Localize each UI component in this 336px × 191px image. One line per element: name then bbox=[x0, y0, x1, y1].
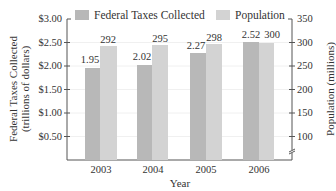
bar-taxes-2004 bbox=[137, 65, 152, 160]
bar-taxes-2006 bbox=[243, 42, 259, 160]
bar-taxes-2003 bbox=[85, 68, 100, 160]
value-label-taxes-2004: 2.02 bbox=[127, 51, 157, 62]
y2-axis-title: Population (millions) bbox=[324, 24, 336, 154]
y-tick-1.00: $1.00 bbox=[28, 107, 62, 118]
x-axis-title: Year bbox=[160, 177, 200, 189]
y2-tick-250: 250 bbox=[297, 60, 313, 71]
bar-taxes-2005 bbox=[190, 53, 206, 160]
bar-population-2004 bbox=[152, 45, 168, 160]
x-tick-2005: 2005 bbox=[186, 164, 226, 175]
y-tick-1.50: $1.50 bbox=[28, 84, 62, 95]
y2-tick-100: 100 bbox=[297, 131, 313, 142]
y2-tick-150: 150 bbox=[297, 107, 313, 118]
value-label-population-2003: 292 bbox=[93, 34, 123, 45]
y-tick-3.00: $3.00 bbox=[28, 13, 62, 24]
bar-population-2005 bbox=[206, 44, 222, 161]
legend-label-population: Population bbox=[235, 9, 285, 21]
y-axis-title-line1: Federal Taxes Collected bbox=[7, 19, 19, 159]
value-label-taxes-2003: 1.95 bbox=[75, 54, 105, 65]
x-tick-2004: 2004 bbox=[133, 164, 173, 175]
legend-swatch-taxes bbox=[75, 10, 89, 20]
legend-label-taxes: Federal Taxes Collected bbox=[94, 9, 205, 21]
x-tick-2006: 2006 bbox=[239, 164, 279, 175]
y-tick-2.50: $2.50 bbox=[28, 37, 62, 48]
y-axis-title-line2: (trillions of dollars) bbox=[19, 19, 31, 159]
value-label-population-2006: 300 bbox=[257, 29, 287, 40]
y-tick-2.00: $2.00 bbox=[28, 60, 62, 71]
bar-population-2006 bbox=[259, 43, 274, 161]
y2-tick-350: 350 bbox=[297, 13, 313, 24]
legend-swatch-population bbox=[216, 10, 230, 20]
x-tick-2003: 2003 bbox=[81, 164, 121, 175]
y2-tick-300: 300 bbox=[297, 37, 313, 48]
value-label-population-2004: 295 bbox=[145, 33, 175, 44]
y-tick-0.50: $0.50 bbox=[28, 131, 62, 142]
value-label-population-2005: 298 bbox=[199, 32, 229, 43]
y2-tick-200: 200 bbox=[297, 84, 313, 95]
y-axis-title: Federal Taxes Collected (trillions of do… bbox=[7, 19, 33, 159]
